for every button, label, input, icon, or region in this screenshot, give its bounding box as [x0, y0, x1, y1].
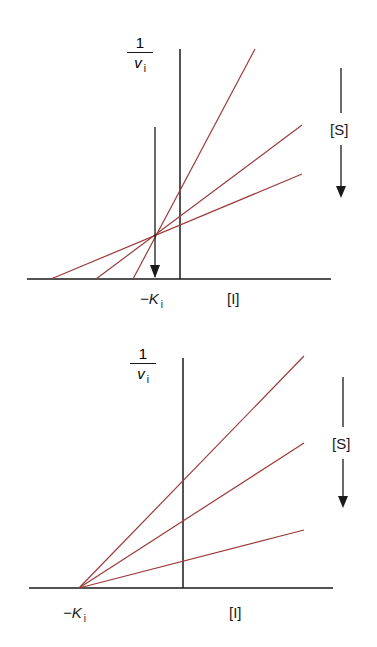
top-line-mid — [96, 125, 302, 279]
bottom-line-mid — [79, 443, 304, 588]
bottom-chart — [29, 356, 348, 588]
bottom-y-label-numerator: 1 — [130, 346, 156, 362]
bottom-s-label: [S] — [332, 434, 350, 453]
bottom-s-arrowhead-icon — [338, 496, 348, 508]
bottom-fraction-bar — [130, 363, 156, 364]
top-s-label: [S] — [330, 120, 348, 139]
top-ki-label: −Ki — [140, 291, 163, 306]
top-y-label-denominator: vi — [127, 55, 153, 73]
top-x-axis-label: [I] — [227, 291, 240, 306]
bottom-line-shallow — [79, 530, 304, 588]
bottom-y-axis-label: 1 vi — [130, 346, 156, 384]
bottom-x-axis-label: [I] — [229, 605, 242, 620]
bottom-y-label-denominator: vi — [130, 366, 156, 384]
top-s-arrowhead-icon — [336, 186, 346, 198]
dixon-plots-canvas — [0, 0, 377, 647]
top-fraction-bar — [127, 52, 153, 53]
top-chart — [27, 49, 346, 279]
top-ki-arrowhead-icon — [150, 265, 160, 278]
top-line-shallow — [51, 174, 302, 279]
top-line-steep — [133, 49, 255, 279]
top-y-axis-label: 1 vi — [127, 35, 153, 73]
bottom-line-steep — [79, 356, 304, 588]
bottom-ki-label: −Ki — [63, 605, 86, 620]
top-y-label-numerator: 1 — [127, 35, 153, 51]
